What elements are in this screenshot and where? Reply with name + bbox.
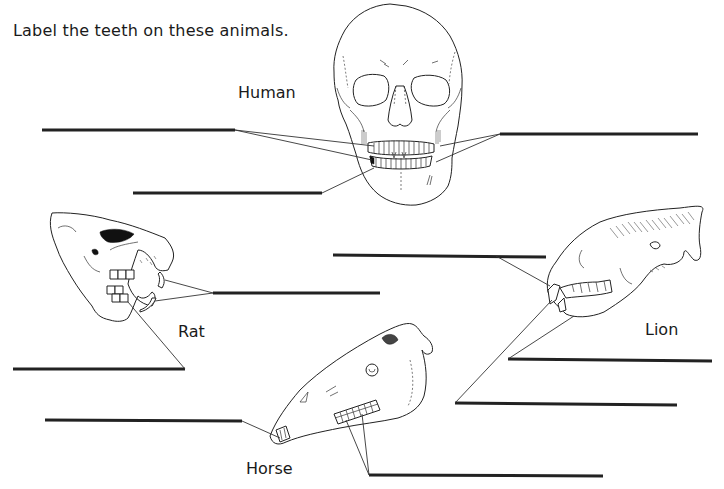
horse-answer-blank-1[interactable] [45, 406, 242, 420]
lion-answer-blank-3[interactable] [455, 389, 677, 403]
horse-label: Horse [246, 459, 293, 478]
lion-answer-blank-1[interactable] [333, 241, 546, 255]
instruction-text: Label the teeth on these animals. [13, 21, 289, 40]
rat-answer-blank-2[interactable] [13, 355, 185, 369]
teeth-labeling-worksheet: Label the teeth on these animals. Human … [0, 0, 724, 489]
lion-blank-line-1 [333, 255, 546, 257]
human-answer-blank-1[interactable] [42, 116, 235, 130]
lion-answer-blank-2[interactable] [508, 345, 712, 359]
rat-label: Rat [178, 322, 205, 341]
human-answer-blank-2[interactable] [500, 120, 698, 134]
lion-blank-line-2 [508, 359, 712, 361]
horse-skull-illustration [270, 323, 433, 444]
lion-label: Lion [645, 320, 678, 339]
human-label: Human [238, 83, 296, 102]
horse-answer-blank-2[interactable] [369, 461, 603, 475]
horse-blank-line-1 [45, 420, 242, 421]
human-answer-blank-3[interactable] [133, 179, 322, 193]
human-skull-illustration [334, 4, 462, 205]
lion-skull-illustration [547, 206, 703, 317]
rat-answer-blank-1[interactable] [213, 279, 380, 293]
rat-skull-illustration [50, 213, 173, 322]
lion-blank-line-3 [455, 403, 677, 405]
horse-blank-line-2 [369, 475, 603, 476]
